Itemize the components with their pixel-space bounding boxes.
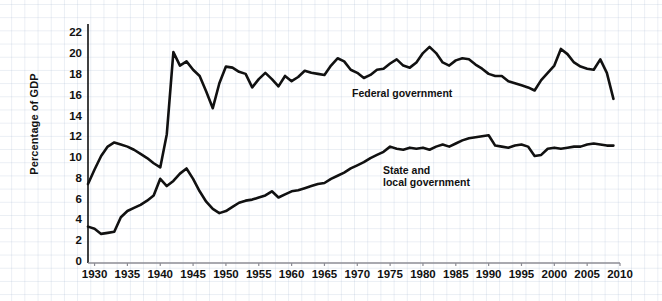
government-spending-line-chart: [0, 0, 662, 301]
state-local-government-series-label: State and local government: [383, 164, 470, 188]
source-citation: SOURCE: Economic Report of the President…: [644, 297, 661, 301]
y-axis-tick-label: 12: [56, 130, 82, 142]
y-axis-tick-label: 16: [56, 89, 82, 101]
y-axis-tick-label: 20: [56, 47, 82, 59]
state-local-government-line: [88, 135, 613, 234]
chart-figure: Percentage of GDP 0246810121416182022 19…: [0, 0, 662, 301]
federal-government-series-label: Federal government: [352, 87, 452, 99]
y-axis-title: Percentage of GDP: [28, 34, 40, 214]
y-axis-tick-label: 18: [56, 68, 82, 80]
y-axis-tick-label: 0: [56, 255, 82, 267]
y-axis-tick-label: 22: [56, 26, 82, 38]
federal-government-line: [88, 47, 613, 184]
y-axis-tick-label: 4: [56, 213, 82, 225]
y-axis-tick-label: 6: [56, 193, 82, 205]
y-axis-tick-label: 10: [56, 151, 82, 163]
y-axis-tick-label: 2: [56, 234, 82, 246]
y-axis-tick-label: 14: [56, 110, 82, 122]
y-axis-tick-label: 8: [56, 172, 82, 184]
x-axis-tick-label: 2010: [598, 268, 642, 280]
